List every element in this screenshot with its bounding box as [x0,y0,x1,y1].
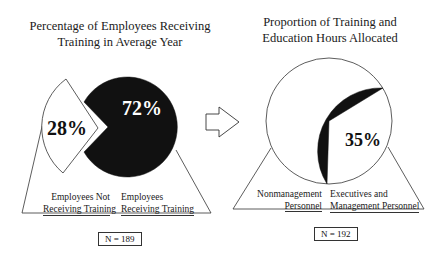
left-sample-size: N = 189 [98,232,142,246]
right-label-executives-line2: Management Personnel [330,200,419,213]
left-label-receiving: Employees Receiving Training [121,191,194,216]
right-pct-executives: 35% [345,130,381,151]
right-title-line2: Education Hours Allocated [255,30,405,46]
right-pct-nonmanagement: 65% [299,73,335,94]
right-label-executives: Executives and Management Personnel [330,188,419,213]
left-label-receiving-line2: Receiving Training [121,203,194,216]
right-sample-size: N = 192 [314,227,358,241]
left-pct-receiving: 72% [122,97,162,120]
left-label-not-receiving-line1: Employees Not [43,191,110,203]
right-label-nonmanagement-line2: Personnel [285,201,322,212]
left-title-line1: Percentage of Employees Receiving [20,18,220,34]
left-chart-title: Percentage of Employees Receiving Traini… [20,18,220,50]
right-chart-title: Proportion of Training and Education Hou… [255,14,405,46]
left-pct-not-receiving: 28% [47,117,87,140]
left-slice-receiving [84,77,177,177]
right-arrow-icon [206,107,239,137]
left-label-not-receiving: Employees Not Receiving Training [43,191,110,216]
left-label-receiving-line1: Employees [121,191,194,203]
right-label-executives-line1: Executives and [330,188,419,200]
left-title-line2: Training in Average Year [20,34,220,50]
right-label-nonmanagement: Nonmanagement Personnel [256,188,322,212]
right-label-nonmanagement-line1: Nonmanagement [256,188,322,200]
right-title-line1: Proportion of Training and [255,14,405,30]
left-label-not-receiving-line2: Receiving Training [43,203,110,216]
